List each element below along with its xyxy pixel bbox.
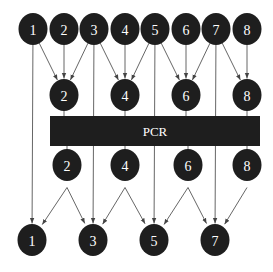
edge-arrow [161, 43, 179, 80]
node-pre-6: 6 [172, 79, 201, 111]
pcr-flow-diagram: PCR 12345678246824681357 [0, 0, 273, 272]
node-label: 4 [122, 23, 129, 38]
node-post-6: 6 [174, 149, 203, 181]
node-bottom-1: 1 [18, 224, 47, 256]
edge-arrow [103, 188, 125, 225]
edge-arrow [42, 188, 67, 225]
node-label: 3 [91, 23, 98, 38]
node-top-3: 3 [80, 13, 109, 45]
node-top-8: 8 [233, 13, 262, 45]
edge-arrow [125, 188, 145, 224]
node-label: 3 [90, 234, 97, 249]
node-bottom-3: 3 [79, 224, 108, 256]
node-label: 8 [244, 89, 251, 104]
edge-arrow [192, 43, 210, 80]
edge-arrow [67, 188, 85, 224]
pcr-box: PCR [50, 116, 260, 146]
node-label: 2 [61, 23, 68, 38]
node-bottom-5: 5 [140, 224, 169, 256]
node-label: 7 [213, 23, 220, 38]
edge-arrow [225, 188, 247, 225]
node-post-2: 2 [53, 149, 82, 181]
node-post-4: 4 [111, 149, 140, 181]
node-label: 8 [244, 23, 251, 38]
node-top-1: 1 [19, 13, 48, 45]
node-pre-4: 4 [111, 79, 140, 111]
edge-arrow [164, 188, 188, 225]
node-post-8: 8 [233, 149, 262, 181]
edge-arrow [32, 44, 33, 223]
node-label: 5 [152, 23, 159, 38]
edge-arrow [222, 43, 240, 80]
node-label: 5 [151, 234, 158, 249]
edge-arrow [188, 188, 207, 224]
node-label: 6 [183, 89, 190, 104]
node-label: 2 [64, 159, 71, 174]
edge-arrow [70, 43, 88, 80]
node-label: 2 [61, 89, 68, 104]
node-top-6: 6 [172, 13, 201, 45]
node-label: 6 [183, 23, 190, 38]
node-top-4: 4 [111, 13, 140, 45]
node-top-2: 2 [50, 13, 79, 45]
node-label: 1 [29, 234, 36, 249]
edge-arrow [100, 43, 118, 80]
node-label: 4 [122, 159, 129, 174]
edge-arrow [39, 43, 57, 80]
node-top-7: 7 [202, 13, 231, 45]
node-pre-2: 2 [50, 79, 79, 111]
node-label: 7 [212, 234, 219, 249]
node-top-5: 5 [141, 13, 170, 45]
pcr-label: PCR [143, 124, 168, 139]
node-label: 6 [185, 159, 192, 174]
node-pre-8: 8 [233, 79, 262, 111]
node-label: 8 [244, 159, 251, 174]
node-label: 1 [30, 23, 37, 38]
edge-arrow [131, 43, 149, 80]
node-bottom-7: 7 [201, 224, 230, 256]
node-label: 4 [122, 89, 129, 104]
